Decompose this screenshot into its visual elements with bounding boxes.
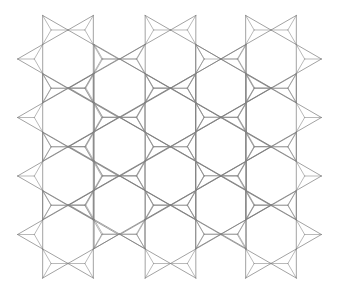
pattern-edge xyxy=(296,235,321,250)
pattern-edge xyxy=(196,234,221,249)
pattern-edge xyxy=(196,44,221,59)
pattern-edge xyxy=(296,59,321,74)
pattern-edge xyxy=(246,191,271,206)
pattern-edge xyxy=(221,103,246,118)
pattern-edge xyxy=(68,249,93,264)
pattern-edge xyxy=(18,220,43,235)
pattern-edge xyxy=(246,132,271,147)
pattern-edge xyxy=(196,161,221,176)
pattern-edge xyxy=(93,162,118,177)
pattern-edge xyxy=(69,132,94,147)
pattern-edge xyxy=(18,103,43,118)
pattern-edge xyxy=(171,30,196,45)
pattern-edge xyxy=(196,59,221,74)
pattern-edge xyxy=(69,74,94,89)
pattern-edge xyxy=(271,264,296,279)
pattern-edge xyxy=(43,249,68,264)
pattern-edge xyxy=(296,220,321,235)
pattern-edge xyxy=(196,176,221,191)
pattern-edge xyxy=(221,117,246,132)
pattern-edge xyxy=(68,264,93,279)
pattern-edge xyxy=(171,191,196,206)
pattern-edge xyxy=(93,59,118,74)
pattern-edge xyxy=(196,220,221,235)
pattern-edge xyxy=(271,88,296,103)
pattern-edge xyxy=(171,88,196,103)
pattern-edge xyxy=(296,45,321,60)
pattern-edge xyxy=(69,191,94,206)
pattern-edge xyxy=(296,118,321,133)
pattern-edge xyxy=(43,205,68,220)
pattern-edge xyxy=(69,88,94,103)
pattern-edge xyxy=(221,176,246,191)
pattern-edge xyxy=(145,205,170,220)
pattern-edge xyxy=(246,264,271,279)
pattern-edge xyxy=(271,191,296,206)
pattern-edge xyxy=(145,30,170,45)
pattern-edge xyxy=(43,88,68,103)
pattern-edge xyxy=(271,74,296,89)
pattern-edge xyxy=(171,264,196,279)
pattern-edge xyxy=(94,220,119,235)
pattern-edge xyxy=(93,220,118,235)
pattern-edge xyxy=(93,103,118,118)
pattern-edge xyxy=(94,103,119,118)
pattern-edge xyxy=(171,249,196,264)
pattern-edge xyxy=(171,205,196,220)
pattern-edge xyxy=(94,59,119,74)
pattern-edge xyxy=(68,30,93,45)
pattern-edge xyxy=(18,59,43,74)
pattern-edge xyxy=(171,132,196,147)
pattern-edge xyxy=(68,15,93,30)
pattern-edge xyxy=(271,15,296,30)
pattern-edge xyxy=(145,132,170,147)
pattern-edge xyxy=(145,191,170,206)
pattern-edge xyxy=(69,147,94,162)
hexagram-pattern xyxy=(0,0,338,295)
pattern-edge xyxy=(246,249,271,264)
pattern-edge xyxy=(296,176,321,191)
pattern-edge xyxy=(94,44,119,59)
pattern-edge xyxy=(18,118,43,133)
pattern-edge xyxy=(296,103,321,118)
pattern-edge xyxy=(145,74,170,89)
pattern-edge xyxy=(43,74,68,89)
pattern-edge xyxy=(43,264,68,279)
pattern-edge xyxy=(43,30,68,45)
pattern-edge xyxy=(93,45,118,60)
pattern-edge xyxy=(221,44,246,59)
pattern-edge xyxy=(145,249,170,264)
pattern-edge xyxy=(18,176,43,191)
pattern-edge xyxy=(18,235,43,250)
pattern-edge xyxy=(221,234,246,249)
pattern-edge xyxy=(271,205,296,220)
pattern-edge xyxy=(18,45,43,60)
pattern-edge xyxy=(145,88,170,103)
pattern-edge xyxy=(145,264,170,279)
pattern-edge xyxy=(246,74,271,89)
pattern-edge xyxy=(43,15,68,30)
pattern-edge xyxy=(69,205,94,220)
pattern-edge xyxy=(68,147,93,162)
pattern-edge xyxy=(221,220,246,235)
pattern-lines xyxy=(18,15,322,278)
pattern-edge xyxy=(145,147,170,162)
pattern-edge xyxy=(221,59,246,74)
pattern-edge xyxy=(271,249,296,264)
pattern-edge xyxy=(296,162,321,177)
pattern-edge xyxy=(145,15,170,30)
pattern-edge xyxy=(43,147,68,162)
pattern-edge xyxy=(221,161,246,176)
pattern-edge xyxy=(171,147,196,162)
pattern-edge xyxy=(271,147,296,162)
pattern-edge xyxy=(196,103,221,118)
pattern-edge xyxy=(120,220,145,235)
pattern-edge xyxy=(246,15,271,30)
pattern-edge xyxy=(246,30,271,45)
pattern-edge xyxy=(221,235,246,250)
pattern-edge xyxy=(43,132,68,147)
pattern-edge xyxy=(196,117,221,132)
pattern-edge xyxy=(94,161,119,176)
pattern-edge xyxy=(18,162,43,177)
pattern-edge xyxy=(171,74,196,89)
